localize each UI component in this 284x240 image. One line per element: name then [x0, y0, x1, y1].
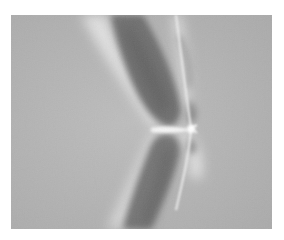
stress-field-image — [11, 15, 272, 229]
stress-pattern-graphic — [11, 15, 272, 229]
